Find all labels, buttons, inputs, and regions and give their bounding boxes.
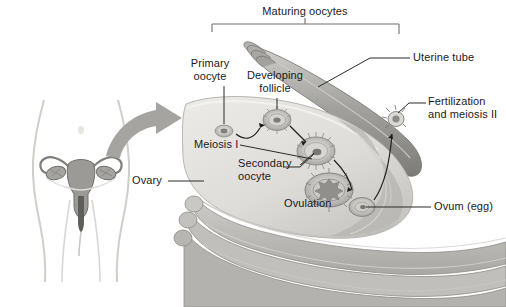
label-ovum-egg: Ovum (egg) [434,200,493,213]
label-developing-follicle: Developing follicle [240,69,310,94]
maturing-oocytes-bracket [212,18,399,34]
label-primary-oocyte: Primary oocyte [180,57,240,82]
label-maturing-oocytes: Maturing oocytes [255,5,355,18]
label-fertilization-meiosis-2: Fertilization and meiosis II [428,95,497,120]
label-uterine-tube: Uterine tube [413,51,474,64]
label-secondary-oocyte: Secondary oocyte [238,157,292,182]
label-ovulation: Ovulation [284,197,331,210]
diagram-artwork [0,0,506,307]
magnification-arrow [106,102,182,158]
figure-root: Primary oocyte Developing follicle Uteri… [0,0,506,307]
label-ovary: Ovary [132,174,162,187]
label-meiosis-1: Meiosis I [194,138,238,151]
follicle-primary-oocyte [215,125,233,137]
leader-uterine-tube [318,58,410,87]
body-inset [33,100,129,282]
